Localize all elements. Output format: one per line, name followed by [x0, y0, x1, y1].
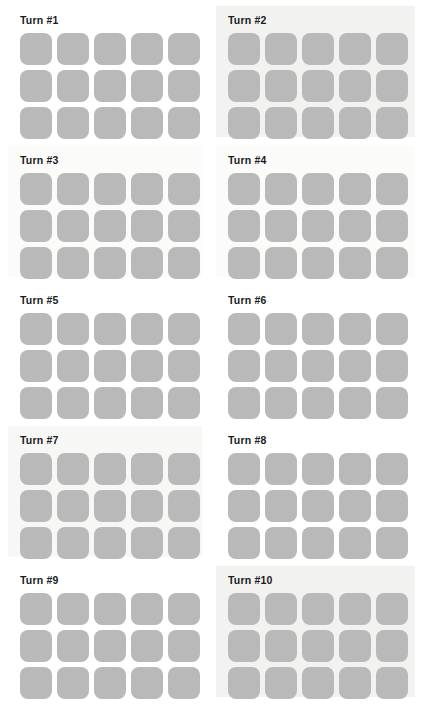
- grid-tile[interactable]: [57, 527, 89, 559]
- grid-tile[interactable]: [168, 107, 200, 139]
- grid-tile[interactable]: [94, 667, 126, 699]
- grid-tile[interactable]: [57, 173, 89, 205]
- grid-tile[interactable]: [20, 387, 52, 419]
- grid-tile[interactable]: [376, 107, 408, 139]
- grid-tile[interactable]: [57, 453, 89, 485]
- grid-tile[interactable]: [302, 490, 334, 522]
- grid-tile[interactable]: [20, 593, 52, 625]
- grid-tile[interactable]: [168, 453, 200, 485]
- grid-tile[interactable]: [131, 350, 163, 382]
- grid-tile[interactable]: [20, 350, 52, 382]
- grid-tile[interactable]: [228, 247, 260, 279]
- grid-tile[interactable]: [94, 107, 126, 139]
- grid-tile[interactable]: [376, 33, 408, 65]
- grid-tile[interactable]: [168, 247, 200, 279]
- grid-tile[interactable]: [339, 453, 371, 485]
- grid-tile[interactable]: [94, 387, 126, 419]
- grid-tile[interactable]: [265, 210, 297, 242]
- grid-tile[interactable]: [20, 107, 52, 139]
- grid-tile[interactable]: [94, 210, 126, 242]
- grid-tile[interactable]: [339, 630, 371, 662]
- grid-tile[interactable]: [339, 593, 371, 625]
- grid-tile[interactable]: [302, 453, 334, 485]
- grid-tile[interactable]: [302, 173, 334, 205]
- grid-tile[interactable]: [302, 387, 334, 419]
- grid-tile[interactable]: [228, 387, 260, 419]
- grid-tile[interactable]: [265, 667, 297, 699]
- grid-tile[interactable]: [168, 593, 200, 625]
- grid-tile[interactable]: [57, 33, 89, 65]
- grid-tile[interactable]: [228, 527, 260, 559]
- grid-tile[interactable]: [131, 173, 163, 205]
- grid-tile[interactable]: [20, 630, 52, 662]
- grid-tile[interactable]: [131, 490, 163, 522]
- grid-tile[interactable]: [94, 527, 126, 559]
- grid-tile[interactable]: [302, 527, 334, 559]
- grid-tile[interactable]: [265, 453, 297, 485]
- grid-tile[interactable]: [20, 490, 52, 522]
- grid-tile[interactable]: [265, 350, 297, 382]
- grid-tile[interactable]: [228, 70, 260, 102]
- grid-tile[interactable]: [339, 490, 371, 522]
- grid-tile[interactable]: [376, 173, 408, 205]
- grid-tile[interactable]: [20, 313, 52, 345]
- grid-tile[interactable]: [376, 210, 408, 242]
- grid-tile[interactable]: [228, 350, 260, 382]
- grid-tile[interactable]: [376, 313, 408, 345]
- grid-tile[interactable]: [302, 107, 334, 139]
- grid-tile[interactable]: [302, 247, 334, 279]
- grid-tile[interactable]: [228, 33, 260, 65]
- grid-tile[interactable]: [57, 350, 89, 382]
- grid-tile[interactable]: [339, 527, 371, 559]
- grid-tile[interactable]: [376, 630, 408, 662]
- grid-tile[interactable]: [94, 630, 126, 662]
- grid-tile[interactable]: [265, 70, 297, 102]
- grid-tile[interactable]: [339, 173, 371, 205]
- grid-tile[interactable]: [20, 33, 52, 65]
- grid-tile[interactable]: [168, 173, 200, 205]
- grid-tile[interactable]: [20, 247, 52, 279]
- grid-tile[interactable]: [57, 667, 89, 699]
- grid-tile[interactable]: [302, 313, 334, 345]
- grid-tile[interactable]: [131, 593, 163, 625]
- grid-tile[interactable]: [376, 667, 408, 699]
- grid-tile[interactable]: [228, 630, 260, 662]
- grid-tile[interactable]: [265, 33, 297, 65]
- grid-tile[interactable]: [57, 70, 89, 102]
- grid-tile[interactable]: [339, 313, 371, 345]
- grid-tile[interactable]: [376, 70, 408, 102]
- grid-tile[interactable]: [265, 313, 297, 345]
- grid-tile[interactable]: [302, 593, 334, 625]
- grid-tile[interactable]: [131, 453, 163, 485]
- grid-tile[interactable]: [57, 107, 89, 139]
- grid-tile[interactable]: [228, 593, 260, 625]
- grid-tile[interactable]: [376, 490, 408, 522]
- grid-tile[interactable]: [168, 667, 200, 699]
- grid-tile[interactable]: [57, 593, 89, 625]
- grid-tile[interactable]: [302, 350, 334, 382]
- grid-tile[interactable]: [20, 453, 52, 485]
- grid-tile[interactable]: [20, 173, 52, 205]
- grid-tile[interactable]: [168, 210, 200, 242]
- grid-tile[interactable]: [131, 247, 163, 279]
- grid-tile[interactable]: [57, 247, 89, 279]
- grid-tile[interactable]: [265, 173, 297, 205]
- grid-tile[interactable]: [131, 387, 163, 419]
- grid-tile[interactable]: [302, 33, 334, 65]
- grid-tile[interactable]: [376, 453, 408, 485]
- grid-tile[interactable]: [57, 313, 89, 345]
- grid-tile[interactable]: [339, 70, 371, 102]
- grid-tile[interactable]: [228, 490, 260, 522]
- grid-tile[interactable]: [57, 387, 89, 419]
- grid-tile[interactable]: [131, 667, 163, 699]
- grid-tile[interactable]: [302, 630, 334, 662]
- grid-tile[interactable]: [94, 247, 126, 279]
- grid-tile[interactable]: [168, 387, 200, 419]
- grid-tile[interactable]: [168, 33, 200, 65]
- grid-tile[interactable]: [131, 210, 163, 242]
- grid-tile[interactable]: [376, 350, 408, 382]
- grid-tile[interactable]: [302, 667, 334, 699]
- grid-tile[interactable]: [168, 527, 200, 559]
- grid-tile[interactable]: [94, 313, 126, 345]
- grid-tile[interactable]: [168, 630, 200, 662]
